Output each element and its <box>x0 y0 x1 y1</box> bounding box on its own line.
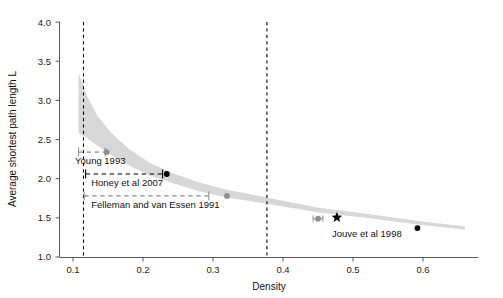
x-tick-label: 0.1 <box>66 264 79 275</box>
marker-point-jouve-et-al-1998 <box>415 225 421 231</box>
x-tick-label: 0.4 <box>276 264 289 275</box>
y-tick-label: 2.0 <box>38 173 51 184</box>
y-tick-label: 1.0 <box>38 251 51 262</box>
figure-background <box>0 0 503 298</box>
annotation-felleman-and-van-essen-1991: Felleman and van Essen 1991 <box>91 199 219 210</box>
chart-figure: 0.10.20.30.40.50.6 1.01.52.02.53.03.54.0… <box>0 0 503 298</box>
x-tick-label: 0.2 <box>136 264 149 275</box>
y-tick-label: 2.5 <box>38 134 51 145</box>
y-tick-label: 4.0 <box>38 17 51 28</box>
y-tick-label: 3.5 <box>38 56 51 67</box>
y-tick-label: 3.0 <box>38 95 51 106</box>
annotation-young-1993: Young 1993 <box>75 155 125 166</box>
y-tick-label: 1.5 <box>38 212 51 223</box>
scatter-plot: 0.10.20.30.40.50.6 1.01.52.02.53.03.54.0… <box>0 0 503 298</box>
annotation-jouve-et-al-1998: Jouve et al 1998 <box>332 228 402 239</box>
marker-point-honey-et-al-2007 <box>164 171 170 177</box>
annotation-honey-et-al-2007: Honey et al 2007 <box>91 177 163 188</box>
x-tick-label: 0.3 <box>206 264 219 275</box>
x-axis-title: Density <box>252 281 285 292</box>
x-tick-label: 0.6 <box>416 264 429 275</box>
marker-point-felleman-and-van-essen-1991 <box>224 193 230 199</box>
y-axis-title: Average shortest path length L <box>7 71 18 207</box>
x-tick-label: 0.5 <box>346 264 359 275</box>
marker-point-unlabelled-gray-point <box>315 216 321 222</box>
